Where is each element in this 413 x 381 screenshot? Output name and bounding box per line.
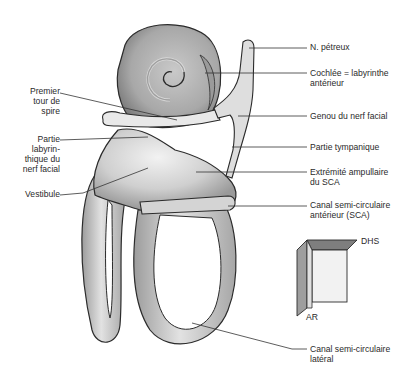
lateral-canal [134,205,236,344]
label-line: Canal semi-circulaire [310,200,390,210]
label-line: Cochlée = labyrinthe [310,68,389,78]
label-line: Extrémité ampullaire [310,167,388,177]
label-line: du SCA [310,177,388,187]
orientation-indicator [297,240,357,316]
label-line: antérieur (SCA) [310,210,390,220]
label-line: latéral [310,354,390,364]
label-line: Vestibule [4,189,60,199]
label-line: nerf facial [8,164,60,174]
label-line: thique du [8,154,60,164]
label-vestibule: Vestibule [4,189,60,199]
inner-ear-illustration [0,0,413,381]
label-cochlee: Cochlée = labyrinthe antérieur [310,68,389,88]
facial-nerve-tympanic [214,40,254,178]
label-line: labyrin- [8,144,60,154]
label-line: Genou du nerf facial [310,111,387,121]
label-extremite-ampullaire: Extrémité ampullaire du SCA [310,167,388,187]
label-canal-sca: Canal semi-circulaire antérieur (SCA) [310,200,390,220]
label-line: N. pétreux [310,42,350,52]
label-line: Partie [8,134,60,144]
label-partie-labyrinthique: Partie labyrin- thique du nerf facial [8,134,60,174]
label-premier-tour-de-spire: Premier tour de spire [14,86,60,116]
label-line: tour de [14,96,60,106]
label-partie-tympanique: Partie tympanique [310,142,379,152]
label-line: spire [14,106,60,116]
label-canal-lateral: Canal semi-circulaire latéral [310,344,390,364]
label-genou-nerf-facial: Genou du nerf facial [310,111,387,121]
label-line: Partie tympanique [310,142,379,152]
label-line: antérieur [310,78,389,88]
label-line: Premier [14,86,60,96]
label-line: Canal semi-circulaire [310,344,390,354]
orientation-label-dhs: DHS [361,236,379,246]
orientation-label-ar: AR [306,312,318,322]
label-n-petreux: N. pétreux [310,42,350,52]
